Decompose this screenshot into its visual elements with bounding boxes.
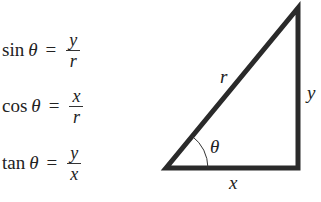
- adjacent-label: x: [229, 172, 237, 194]
- right-triangle: [0, 0, 321, 202]
- hypotenuse-label: r: [220, 66, 227, 88]
- opposite-label: y: [307, 82, 315, 104]
- triangle-outline: [166, 8, 298, 168]
- angle-label: θ: [210, 136, 219, 158]
- angle-arc: [192, 136, 208, 168]
